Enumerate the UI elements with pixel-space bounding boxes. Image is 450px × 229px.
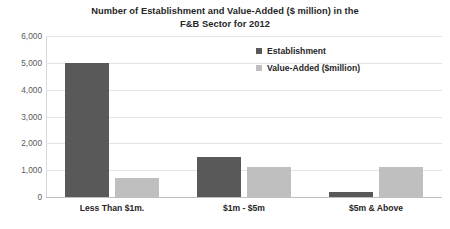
y-axis-tick-label: 3,000 — [2, 112, 42, 122]
x-axis-tick-label: $5m & Above — [310, 203, 442, 213]
bar-chart: Number of Establishment and Value-Added … — [0, 0, 450, 229]
bar-value-added[interactable] — [247, 167, 291, 197]
bar-group — [197, 36, 291, 197]
bar-group — [65, 36, 159, 197]
x-axis-line — [46, 197, 442, 198]
chart-title-line-2: F&B Sector for 2012 — [0, 18, 450, 31]
y-axis-tick-label: 4,000 — [2, 85, 42, 95]
y-axis-tick-label: 5,000 — [2, 58, 42, 68]
plot-area — [46, 36, 442, 198]
bar-group — [329, 36, 423, 197]
bar-establishment[interactable] — [329, 192, 373, 197]
y-axis-tick-label: 0 — [2, 192, 42, 202]
bar-establishment[interactable] — [197, 157, 241, 197]
y-axis-tick-label: 2,000 — [2, 138, 42, 148]
bar-establishment[interactable] — [65, 63, 109, 197]
bar-value-added[interactable] — [379, 167, 423, 197]
y-axis-labels: 6,0005,0004,0003,0002,0001,0000 — [0, 36, 42, 198]
x-axis-labels: Less Than $1m.$1m - $5m$5m & Above — [46, 203, 442, 223]
bar-value-added[interactable] — [115, 178, 159, 197]
x-axis-tick-label: $1m - $5m — [178, 203, 310, 213]
x-axis-tick-label: Less Than $1m. — [46, 203, 178, 213]
chart-title: Number of Establishment and Value-Added … — [0, 5, 450, 31]
y-axis-tick-label: 1,000 — [2, 165, 42, 175]
y-axis-tick-label: 6,000 — [2, 31, 42, 41]
chart-title-line-1: Number of Establishment and Value-Added … — [0, 5, 450, 18]
